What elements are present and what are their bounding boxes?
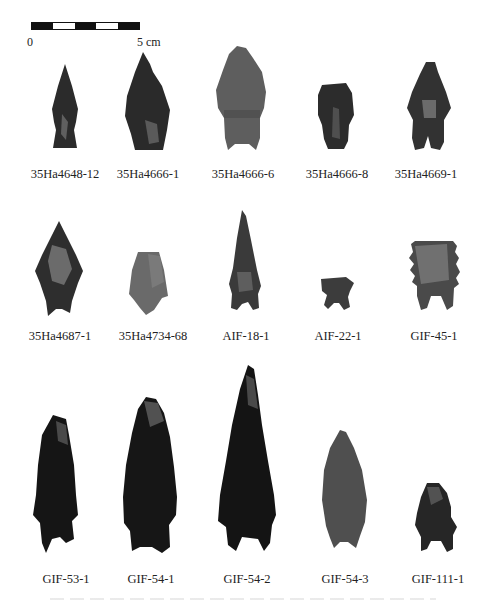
artifact-35ha4669-1: [406, 62, 452, 150]
artifact-label: GIF-111-1: [412, 573, 465, 586]
artifact-label: GIF-54-1: [127, 573, 174, 586]
scale-segment: [75, 23, 96, 29]
scale-segment: [53, 23, 74, 29]
scale-segment: [32, 23, 53, 29]
artifact-35ha4734-68: [128, 252, 169, 315]
artifact-35ha4687-1: [34, 221, 84, 316]
artifact-gif-54-3: [320, 430, 368, 550]
cropped-caption-line: [50, 598, 436, 600]
artifact-label: GIF-54-2: [223, 573, 270, 586]
artifact-35ha4666-6: [215, 46, 268, 150]
artifact-label: 35Ha4666-8: [306, 168, 369, 181]
artifact-gif-54-1: [122, 397, 178, 553]
artifact-label: AIF-18-1: [222, 330, 269, 343]
scale-bar: [31, 22, 140, 30]
artifact-label: 35Ha4666-6: [212, 168, 275, 181]
artifact-gif-111-1: [413, 483, 457, 552]
artifact-aif-18-1: [227, 210, 263, 310]
artifact-label: GIF-53-1: [42, 573, 89, 586]
artifact-aif-22-1: [320, 277, 354, 310]
artifact-gif-53-1: [32, 415, 79, 553]
artifact-35ha4648-12: [47, 64, 83, 148]
scale-segment: [96, 23, 117, 29]
artifact-label: GIF-45-1: [410, 330, 457, 343]
artifact-label: 35Ha4648-12: [31, 168, 100, 181]
artifact-label: 35Ha4734-68: [119, 330, 188, 343]
artifact-label: 35Ha4669-1: [395, 168, 458, 181]
artifact-label: 35Ha4666-1: [117, 168, 180, 181]
scale-end-label: 5 cm: [137, 36, 161, 48]
artifact-label: AIF-22-1: [314, 330, 361, 343]
scale-start-label: 0: [27, 36, 33, 48]
artifact-35ha4666-8: [316, 81, 356, 149]
artifact-gif-45-1: [407, 240, 461, 310]
artifact-label: 35Ha4687-1: [29, 330, 92, 343]
artifact-35ha4666-1: [123, 52, 172, 150]
scale-segment: [118, 23, 139, 29]
artifact-gif-54-2: [216, 365, 277, 553]
artifact-label: GIF-54-3: [321, 573, 368, 586]
